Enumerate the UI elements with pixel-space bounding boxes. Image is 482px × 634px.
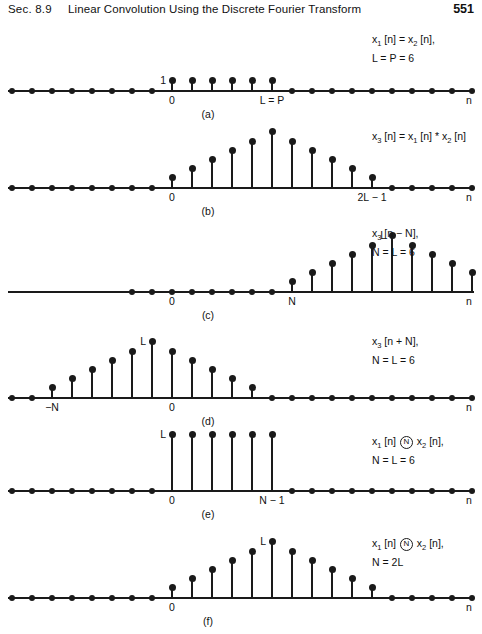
stem-line — [211, 159, 213, 187]
stem-line — [311, 150, 313, 187]
zero-sample-dot — [49, 88, 55, 94]
stem-line — [191, 360, 193, 397]
stem-head-dot — [249, 384, 256, 391]
peak-amplitude-label-d: L — [140, 335, 146, 347]
zero-sample-dot — [409, 88, 415, 94]
zero-sample-dot — [9, 395, 15, 401]
stem-line — [271, 132, 273, 187]
zero-sample-dot — [289, 488, 295, 494]
stem-line — [431, 254, 433, 291]
zero-sample-dot — [449, 395, 455, 401]
stem-head-dot — [189, 575, 196, 582]
peak-amplitude-label-a: 1 — [160, 74, 166, 86]
stem-head-dot — [329, 156, 336, 163]
stem-head-dot — [349, 575, 356, 582]
zero-sample-dot — [369, 488, 375, 494]
axis-variable-label: n — [466, 601, 472, 613]
stem-line — [151, 342, 153, 397]
zero-sample-dot — [29, 185, 35, 191]
x-tick-label: 0 — [169, 494, 175, 506]
zero-sample-dot — [89, 88, 95, 94]
axis-variable-label: n — [466, 494, 472, 506]
axis-variable-label: n — [466, 191, 472, 203]
stem-head-dot — [149, 338, 156, 345]
equation-annotation-e: x1 [n] N x2 [n],N = L = 6 — [372, 434, 444, 467]
x-tick-label: 0 — [169, 295, 175, 307]
n-axis-a — [8, 90, 474, 92]
zero-sample-dot — [349, 88, 355, 94]
plot-area-f: L0nx1 [n] N x2 [n],N = 2L(f) — [0, 532, 482, 634]
n-axis-d — [8, 397, 474, 399]
zero-sample-dot — [329, 488, 335, 494]
stem-head-dot — [189, 165, 196, 172]
zero-sample-dot — [149, 88, 155, 94]
plot-area-b: 02L − 1nx3 [n] = x1 [n] * x2 [n](b) — [0, 125, 482, 222]
zero-sample-dot — [249, 289, 255, 295]
stem-head-dot — [169, 77, 176, 84]
stem-head-dot — [369, 584, 376, 591]
stem-head-dot — [109, 357, 116, 364]
zero-sample-dot — [389, 595, 395, 601]
zero-sample-dot — [349, 488, 355, 494]
peak-amplitude-label-e: L — [160, 428, 166, 440]
n-axis-b — [8, 187, 474, 189]
stem-head-dot — [229, 375, 236, 382]
zero-sample-dot — [29, 488, 35, 494]
stem-head-dot — [249, 431, 256, 438]
stem-head-dot — [349, 251, 356, 258]
zero-sample-dot — [389, 88, 395, 94]
panel-caption-f: (f) — [203, 615, 213, 627]
stem-line — [271, 435, 273, 490]
x-tick-label: −N — [45, 401, 59, 413]
stem-plot-panel-b: 02L − 1nx3 [n] = x1 [n] * x2 [n](b) — [0, 125, 482, 222]
stem-head-dot — [49, 384, 56, 391]
zero-sample-dot — [129, 488, 135, 494]
stem-head-dot — [229, 77, 236, 84]
stem-line — [291, 551, 293, 597]
zero-sample-dot — [189, 289, 195, 295]
stem-line — [211, 569, 213, 597]
zero-sample-dot — [429, 395, 435, 401]
stem-plot-panel-d: L−N0nx3 [n + N],N = L = 6(d) — [0, 330, 482, 430]
zero-sample-dot — [269, 289, 275, 295]
axis-variable-label: n — [466, 401, 472, 413]
stem-head-dot — [289, 548, 296, 555]
zero-sample-dot — [209, 289, 215, 295]
panel-caption-b: (b) — [202, 205, 215, 217]
stem-head-dot — [269, 431, 276, 438]
zero-sample-dot — [29, 595, 35, 601]
stem-line — [251, 551, 253, 597]
stem-line — [171, 351, 173, 397]
stem-line — [211, 435, 213, 490]
x-tick-label: N — [288, 295, 296, 307]
stem-head-dot — [209, 431, 216, 438]
zero-sample-dot — [229, 289, 235, 295]
zero-sample-dot — [389, 185, 395, 191]
zero-sample-dot — [309, 88, 315, 94]
stem-head-dot — [269, 77, 276, 84]
zero-sample-dot — [69, 488, 75, 494]
x-tick-label: N − 1 — [259, 494, 284, 506]
stem-line — [251, 435, 253, 490]
zero-sample-dot — [89, 488, 95, 494]
stem-plot-panel-e: L0N − 1nx1 [n] N x2 [n],N = L = 6(e) — [0, 430, 482, 532]
zero-sample-dot — [449, 595, 455, 601]
zero-sample-dot — [69, 88, 75, 94]
x-tick-label: 0 — [169, 191, 175, 203]
equation-annotation-d: x3 [n + N],N = L = 6 — [372, 334, 418, 367]
stem-line — [331, 263, 333, 291]
stem-head-dot — [269, 538, 276, 545]
zero-sample-dot — [289, 395, 295, 401]
stem-line — [171, 435, 173, 490]
stem-head-dot — [309, 269, 316, 276]
stem-line — [271, 542, 273, 597]
zero-sample-dot — [369, 395, 375, 401]
zero-sample-dot — [29, 88, 35, 94]
stem-head-dot — [229, 557, 236, 564]
zero-sample-dot — [269, 395, 275, 401]
axis-variable-label: n — [466, 94, 472, 106]
stem-head-dot — [309, 147, 316, 154]
stem-line — [191, 435, 193, 490]
zero-sample-dot — [449, 185, 455, 191]
zero-sample-dot — [309, 488, 315, 494]
